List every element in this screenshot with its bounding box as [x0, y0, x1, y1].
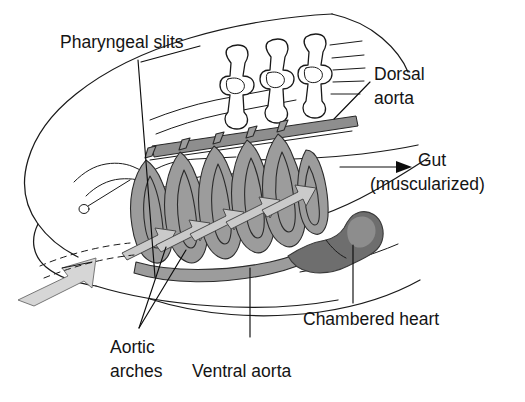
figure-canvas: Pharyngeal slits Dorsal aorta Gut (muscu…	[0, 0, 525, 402]
slit-bar-2	[260, 39, 294, 123]
rod-end-loop	[79, 205, 89, 214]
gill-ray-1	[330, 41, 362, 45]
leader-dorsal-aorta	[334, 82, 370, 119]
label-pharyngeal-slits: Pharyngeal slits	[60, 32, 184, 52]
slit-bar-3	[298, 34, 332, 118]
inflow-arrow	[18, 258, 96, 306]
gut-arrow-head	[396, 161, 412, 173]
label-dorsal-aorta-line1: Dorsal	[374, 64, 425, 84]
leader-gut-arrow	[340, 161, 412, 173]
inflow-arrow-group	[18, 258, 96, 306]
gill-ray-3	[333, 68, 365, 70]
label-gut-line2: (muscularized)	[370, 174, 485, 194]
label-ventral-aorta: Ventral aorta	[192, 361, 291, 381]
pharyngeal-rod	[88, 180, 130, 206]
gill-ray-4	[333, 81, 364, 82]
gill-rays	[330, 41, 365, 94]
gill-ray-2	[332, 55, 364, 58]
ventral-body-contour	[96, 286, 338, 307]
label-gut-line1: Gut	[418, 150, 446, 170]
pharyngeal-slit-bars	[220, 34, 365, 129]
label-chambered-heart: Chambered heart	[303, 309, 439, 329]
slit-bar-1	[220, 45, 254, 129]
label-aortic-arches-line2: arches	[110, 361, 163, 381]
anatomy-diagram: Pharyngeal slits Dorsal aorta Gut (muscu…	[0, 0, 525, 402]
label-dorsal-aorta-line2: aorta	[374, 88, 414, 108]
label-aortic-arches-line1: Aortic	[110, 337, 155, 357]
